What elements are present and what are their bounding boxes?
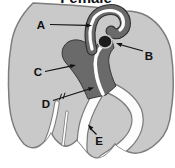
label-c: C [34, 66, 42, 78]
ovary [98, 35, 112, 48]
label-a: A [37, 19, 45, 31]
anatomy-diagram: Female A [0, 0, 175, 168]
anatomy-figure: Female A [0, 0, 175, 168]
label-e: E [95, 135, 103, 147]
label-d: D [42, 98, 50, 110]
label-b: B [145, 50, 153, 62]
label-a-arrow [50, 25, 87, 26]
